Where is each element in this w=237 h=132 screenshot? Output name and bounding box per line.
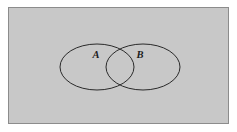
venn-diagram-figure: A B [0,0,237,132]
set-b-label: B [135,49,143,60]
universal-set-rectangle [9,8,229,124]
set-a-label: A [91,49,99,60]
venn-diagram-screenshot: A B [0,0,237,132]
